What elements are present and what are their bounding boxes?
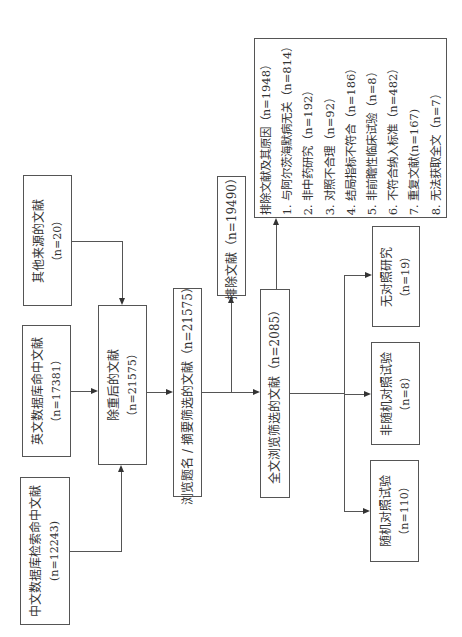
- connector-line: [147, 392, 166, 393]
- outcome-box-rct: 随机对照试验 （n=110）: [370, 460, 419, 562]
- arrow-right-icon: [253, 389, 260, 395]
- arrow-up-icon: [273, 218, 279, 225]
- source-box-english-db: 英文数据库命中文献 （n=17381）: [22, 325, 71, 457]
- exclusion-reason-item: 3. 对照不合理（n=92）: [319, 41, 340, 216]
- full-text-box: 全文浏览筛选的文献（n=2085）: [260, 289, 290, 498]
- arrow-right-icon: [365, 272, 372, 278]
- arrow-up-icon: [228, 296, 234, 303]
- source-chinese-label: 中文数据库检索命中文献: [26, 485, 46, 617]
- exclusion-reasons-title: 排除文献及其原因（n=1948）: [255, 41, 276, 216]
- outcome-non-rct-count: （n=8）: [397, 352, 415, 436]
- excluded-first-box: 排除文献（n=19490）: [217, 176, 246, 296]
- outcome-no-control-label: 无对照研究: [377, 247, 397, 307]
- arrow-right-icon: [363, 508, 370, 514]
- dedup-count: （n=21575）: [124, 348, 142, 421]
- dedup-box: 除重后的文献 （n=21575）: [98, 305, 147, 465]
- dedup-label: 除重后的文献: [104, 348, 124, 421]
- arrow-down-icon: [119, 298, 125, 305]
- connector-line: [344, 275, 365, 276]
- source-other-count: （n=20）: [49, 199, 67, 283]
- arrow-right-icon: [91, 388, 98, 394]
- source-chinese-count: (n=12243): [46, 485, 64, 617]
- arrow-right-icon: [166, 389, 173, 395]
- arrow-up-icon: [118, 465, 124, 472]
- connector-line: [72, 241, 123, 242]
- connector-line: [202, 392, 253, 393]
- source-other-label: 其他来源的文献: [29, 199, 49, 283]
- title-abstract-label: 浏览题名 / 摘要筛选的文献（n=21575）: [178, 281, 198, 505]
- connector-line: [290, 393, 345, 394]
- full-text-label: 全文浏览筛选的文献（n=2085）: [265, 303, 285, 483]
- exclusion-reason-item: 6. 不符合纳入标准（n=482）: [382, 41, 403, 216]
- connector-line: [344, 511, 363, 512]
- outcome-non-rct-label: 非随机对照试验: [377, 352, 397, 436]
- connector-line: [70, 551, 121, 552]
- source-box-chinese-db: 中文数据库检索命中文献 (n=12243): [20, 477, 70, 625]
- exclusion-reason-item: 1. 与阿尔茨海默病无关（n=814）: [276, 41, 297, 216]
- connector-line: [71, 391, 91, 392]
- outcome-no-control-count: （n=19）: [397, 247, 415, 307]
- exclusion-reasons-box: 排除文献及其原因（n=1948） 1. 与阿尔茨海默病无关（n=814） 2. …: [254, 38, 447, 218]
- source-box-other: 其他来源的文献 （n=20）: [23, 175, 72, 306]
- excluded-first-label: 排除文献（n=19490）: [222, 172, 242, 300]
- exclusion-reason-item: 8. 无法获取全文（n=7）: [425, 41, 446, 216]
- exclusion-reason-item: 5. 非前瞻性临床试验（n=8）: [361, 41, 382, 216]
- source-english-count: （n=17381）: [48, 337, 66, 445]
- connector-line: [344, 394, 364, 395]
- outcome-box-non-rct: 非随机对照试验 （n=8）: [371, 342, 420, 445]
- source-english-label: 英文数据库命中文献: [28, 337, 48, 445]
- outcome-rct-count: （n=110）: [396, 475, 414, 547]
- connector-line: [121, 472, 122, 552]
- outcome-box-no-control: 无对照研究 （n=19）: [372, 226, 420, 327]
- exclusion-reason-item: 4. 结局指标不符合（n=186）: [340, 41, 361, 216]
- arrow-right-icon: [364, 391, 371, 397]
- connector-line: [231, 303, 232, 393]
- title-abstract-box: 浏览题名 / 摘要筛选的文献（n=21575）: [173, 288, 202, 497]
- outcome-rct-label: 随机对照试验: [376, 475, 396, 547]
- exclusion-reason-item: 2. 非中药研究（n=192）: [297, 41, 318, 216]
- connector-line: [122, 241, 123, 298]
- exclusion-reason-item: 7. 重复文献(n=167): [404, 41, 425, 216]
- connector-line: [276, 225, 277, 289]
